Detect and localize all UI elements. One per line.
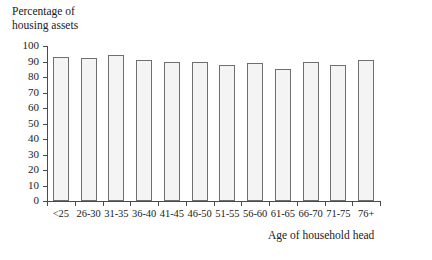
x-axis-tick-label: 66-70 (298, 208, 323, 220)
x-axis-tick (269, 201, 270, 206)
y-axis-tick-label: 90 (13, 55, 39, 67)
bar (136, 60, 152, 201)
y-axis-tick: 60 (43, 108, 48, 109)
x-axis-tick-label: 61-65 (271, 208, 296, 220)
x-axis-tick (241, 201, 242, 206)
x-axis-tick (130, 201, 131, 206)
bar (275, 69, 291, 201)
y-axis-tick-label: 20 (13, 163, 39, 175)
y-axis-tick: 80 (43, 77, 48, 78)
x-axis-tick (103, 201, 104, 206)
x-axis-tick (75, 201, 76, 206)
y-axis-tick: 10 (43, 186, 48, 187)
x-axis-tick (47, 201, 48, 206)
y-axis-tick: 30 (43, 155, 48, 156)
plot-area: 0102030405060708090100 <2526-3031-3536-4… (47, 46, 380, 201)
y-axis-tick: 100 (43, 46, 48, 47)
x-axis-tick (352, 201, 353, 206)
bar (219, 65, 235, 201)
x-axis-tick (158, 201, 159, 206)
x-axis-tick-label: <25 (53, 208, 69, 220)
y-axis-tick-label: 30 (13, 148, 39, 160)
x-axis-tick (186, 201, 187, 206)
y-axis-tick: 40 (43, 139, 48, 140)
y-axis-tick-label: 100 (13, 39, 39, 51)
x-axis-tick-label: 51-55 (215, 208, 240, 220)
y-axis-tick: 50 (43, 124, 48, 125)
x-axis-tick-label: 76+ (358, 208, 374, 220)
bar (192, 62, 208, 202)
x-axis-title: Age of household head (268, 229, 374, 242)
y-axis-tick-label: 80 (13, 70, 39, 82)
bar (358, 60, 374, 201)
y-axis-tick-label: 10 (13, 179, 39, 191)
bar (108, 55, 124, 201)
y-axis-title-line-1: Percentage of (12, 4, 78, 18)
bar (81, 58, 97, 201)
y-axis-tick: 20 (43, 170, 48, 171)
bar (330, 65, 346, 201)
bar (164, 62, 180, 202)
bar (53, 57, 69, 201)
bar (247, 63, 263, 201)
y-axis-tick-label: 0 (13, 194, 39, 206)
x-axis-tick (380, 201, 381, 206)
x-axis-tick (214, 201, 215, 206)
y-axis-tick: 70 (43, 93, 48, 94)
bar-chart-figure: Percentage of housing assets 01020304050… (0, 0, 432, 260)
x-axis-tick-label: 36-40 (132, 208, 157, 220)
x-axis-tick-label: 46-50 (187, 208, 212, 220)
bar (303, 62, 319, 202)
y-axis-title-line-2: housing assets (12, 18, 78, 32)
y-axis-tick: 90 (43, 62, 48, 63)
x-axis-tick (297, 201, 298, 206)
x-axis-tick-label: 41-45 (160, 208, 185, 220)
y-axis-tick-label: 70 (13, 86, 39, 98)
x-axis-tick-label: 26-30 (76, 208, 101, 220)
x-axis-tick (325, 201, 326, 206)
x-axis-tick-label: 56-60 (243, 208, 268, 220)
x-axis-tick-label: 31-35 (104, 208, 129, 220)
y-axis-title: Percentage of housing assets (12, 4, 78, 32)
x-axis-tick-label: 71-75 (326, 208, 351, 220)
y-axis-tick-label: 50 (13, 117, 39, 129)
y-axis-tick-label: 60 (13, 101, 39, 113)
y-axis-tick-label: 40 (13, 132, 39, 144)
